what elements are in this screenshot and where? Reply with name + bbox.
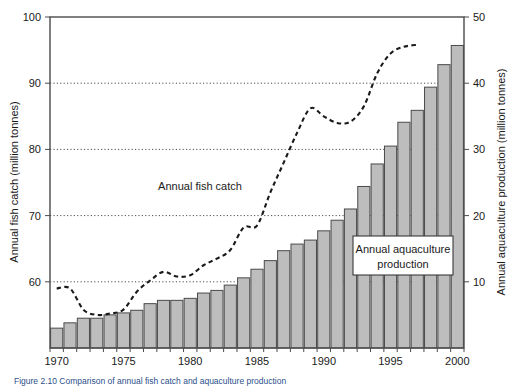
x-tick-label-2000: 2000 <box>445 355 469 367</box>
bar-1990 <box>318 231 330 348</box>
x-tick-label-1970: 1970 <box>44 355 68 367</box>
y-right-axis-title: Annual aquaculture production (million t… <box>495 69 507 296</box>
bar-1999 <box>438 65 450 348</box>
bar-1982 <box>211 290 223 348</box>
y-left-tick-label-70: 70 <box>29 210 41 222</box>
bar-1975 <box>117 313 129 348</box>
bar-1976 <box>131 310 143 348</box>
y-left-tick-label-90: 90 <box>29 77 41 89</box>
y-left-tick-label-80: 80 <box>29 143 41 155</box>
chart-canvas: 1970197519801985199019952000 10090807060… <box>0 0 516 387</box>
bar-2000 <box>451 45 463 348</box>
bar-1986 <box>264 261 276 348</box>
figure-caption: Figure 2.10 Comparison of annual fish ca… <box>14 376 286 386</box>
bar-1978 <box>157 300 169 348</box>
bar-1987 <box>278 251 290 348</box>
bar-1992 <box>344 209 356 348</box>
y-right-tick-label-10: 10 <box>473 276 485 288</box>
y-right-ticks-group <box>464 17 469 282</box>
bar-1972 <box>77 318 89 348</box>
figure-root: 1970197519801985199019952000 10090807060… <box>0 0 516 387</box>
bar-1973 <box>91 318 103 348</box>
bar-1979 <box>171 300 183 348</box>
bar-1985 <box>251 269 263 348</box>
bar-1971 <box>64 323 76 348</box>
bar-1970 <box>51 328 63 348</box>
bar-1998 <box>425 87 437 348</box>
y-left-tick-label-60: 60 <box>29 276 41 288</box>
bar-1996 <box>398 122 410 348</box>
y-right-tick-labels-group: 5040302010 <box>473 11 485 288</box>
x-tick-label-1990: 1990 <box>312 355 336 367</box>
x-tick-label-1985: 1985 <box>245 355 269 367</box>
bar-1983 <box>224 285 236 348</box>
x-tick-label-1995: 1995 <box>378 355 402 367</box>
aquaculture-annotation-box: Annual aquaculture production <box>353 236 453 275</box>
y-right-tick-label-50: 50 <box>473 11 485 23</box>
chart-svg: 1970197519801985199019952000 10090807060… <box>0 0 516 387</box>
bars-group <box>51 45 464 348</box>
bar-1980 <box>184 298 196 348</box>
y-right-tick-label-40: 40 <box>473 77 485 89</box>
bar-1991 <box>331 220 343 348</box>
x-tick-label-1975: 1975 <box>111 355 135 367</box>
x-tick-label-1980: 1980 <box>178 355 202 367</box>
y-left-tick-label-100: 100 <box>23 11 41 23</box>
bar-1974 <box>104 315 116 348</box>
x-tick-labels-group: 1970197519801985199019952000 <box>44 355 469 367</box>
aquaculture-label-line2: production <box>377 258 428 270</box>
bar-1977 <box>144 304 156 348</box>
aquaculture-label-line1: Annual aquaculture <box>356 243 451 255</box>
bar-1997 <box>411 110 423 348</box>
fish-catch-label: Annual fish catch <box>158 180 242 192</box>
bar-1988 <box>291 244 303 348</box>
y-right-tick-label-20: 20 <box>473 210 485 222</box>
y-left-axis-title: Annual fish catch (million tonnes) <box>8 101 20 262</box>
bar-1981 <box>198 293 210 348</box>
y-left-ticks-group <box>45 17 50 282</box>
bar-1984 <box>238 278 250 348</box>
bar-1989 <box>304 240 316 348</box>
y-right-tick-label-30: 30 <box>473 143 485 155</box>
y-left-tick-labels-group: 10090807060 <box>23 11 41 288</box>
